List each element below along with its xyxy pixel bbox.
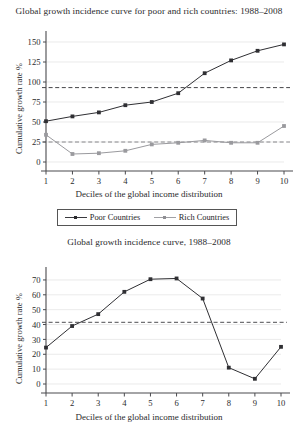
x-tick-label: 8	[229, 176, 233, 186]
data-point-marker	[201, 297, 205, 301]
series-line-rich-countries	[46, 126, 284, 154]
legend-label-rich-countries: Rich Countries	[179, 213, 229, 222]
x-tick-label: 4	[122, 398, 127, 408]
data-point-marker	[176, 91, 180, 95]
x-tick-label: 4	[123, 176, 128, 186]
legend-line-marker-icon	[154, 214, 176, 221]
data-point-marker	[253, 377, 257, 381]
data-point-marker	[123, 149, 127, 153]
y-tick-label: 60	[32, 290, 41, 300]
x-tick-label: 3	[96, 398, 100, 408]
data-point-marker	[227, 366, 231, 370]
data-point-marker	[175, 277, 179, 281]
y-tick-label: 100	[28, 77, 41, 87]
data-point-marker	[44, 346, 48, 350]
data-point-marker	[44, 119, 48, 123]
x-tick-label: 8	[227, 398, 231, 408]
data-point-marker	[70, 324, 74, 328]
data-point-marker	[96, 312, 100, 316]
chart-panel-bottom: Global growth incidence curve, 1988–2008…	[0, 232, 298, 430]
y-tick-label: 75	[32, 97, 41, 107]
y-tick-label: 70	[32, 275, 41, 285]
y-tick-label: 30	[32, 335, 41, 345]
data-point-marker	[71, 115, 75, 119]
plot-area-bottom: 01020304050607012345678910	[0, 232, 298, 430]
data-point-marker	[150, 100, 154, 104]
x-axis-label-bottom: Deciles of the global income distributio…	[0, 412, 298, 422]
y-tick-label: 150	[28, 37, 41, 47]
legend-entry-rich-countries: Rich Countries	[154, 213, 229, 222]
x-tick-label: 7	[203, 176, 208, 186]
y-tick-label: 50	[32, 117, 41, 127]
y-tick-label: 25	[32, 137, 41, 147]
series-line-global-growth-incidence	[46, 278, 281, 378]
x-tick-label: 9	[253, 398, 257, 408]
data-point-marker	[71, 152, 75, 156]
y-tick-label: 10	[32, 364, 41, 374]
x-axis-label-top: Deciles of the global income distributio…	[0, 189, 298, 199]
data-point-marker	[279, 345, 283, 349]
x-tick-label: 1	[44, 176, 48, 186]
data-point-marker	[203, 71, 207, 75]
data-point-marker	[229, 59, 233, 63]
x-tick-label: 10	[277, 398, 286, 408]
legend-label-poor-countries: Poor Countries	[90, 213, 140, 222]
legend-line-marker-icon	[65, 214, 87, 221]
y-tick-label: 125	[28, 57, 41, 67]
data-point-marker	[256, 141, 260, 145]
chart-panel-top: Global growth incidence curve for poor a…	[0, 0, 298, 205]
y-tick-label: 0	[36, 379, 40, 389]
x-tick-label: 5	[150, 176, 154, 186]
data-point-marker	[97, 151, 101, 155]
data-point-marker	[203, 139, 207, 143]
data-point-marker	[97, 111, 101, 115]
x-tick-label: 3	[97, 176, 101, 186]
x-tick-label: 6	[174, 398, 179, 408]
legend-entry-poor-countries: Poor Countries	[65, 213, 140, 222]
data-point-marker	[176, 141, 180, 145]
data-point-marker	[122, 290, 126, 294]
series-line-poor-countries	[46, 44, 284, 121]
y-tick-label: 50	[32, 305, 41, 315]
x-tick-label: 9	[255, 176, 259, 186]
x-tick-label: 7	[201, 398, 206, 408]
data-point-marker	[282, 43, 286, 47]
data-point-marker	[149, 277, 153, 281]
data-point-marker	[150, 143, 154, 147]
x-tick-label: 5	[148, 398, 152, 408]
chart-legend: Poor Countries Rich Countries	[57, 209, 237, 226]
data-point-marker	[44, 133, 48, 137]
data-point-marker	[229, 141, 233, 145]
plot-area-top: 025507510012515012345678910	[0, 0, 298, 205]
data-point-marker	[123, 103, 127, 107]
data-point-marker	[256, 49, 260, 53]
y-tick-label: 20	[32, 349, 41, 359]
x-tick-label: 2	[70, 176, 74, 186]
x-tick-label: 1	[44, 398, 48, 408]
x-tick-label: 6	[176, 176, 181, 186]
x-tick-label: 2	[70, 398, 74, 408]
x-tick-label: 10	[280, 176, 289, 186]
figure-global-growth-incidence: Global growth incidence curve for poor a…	[0, 0, 298, 430]
y-tick-label: 0	[36, 157, 40, 167]
data-point-marker	[282, 124, 286, 128]
y-tick-label: 40	[32, 320, 41, 330]
